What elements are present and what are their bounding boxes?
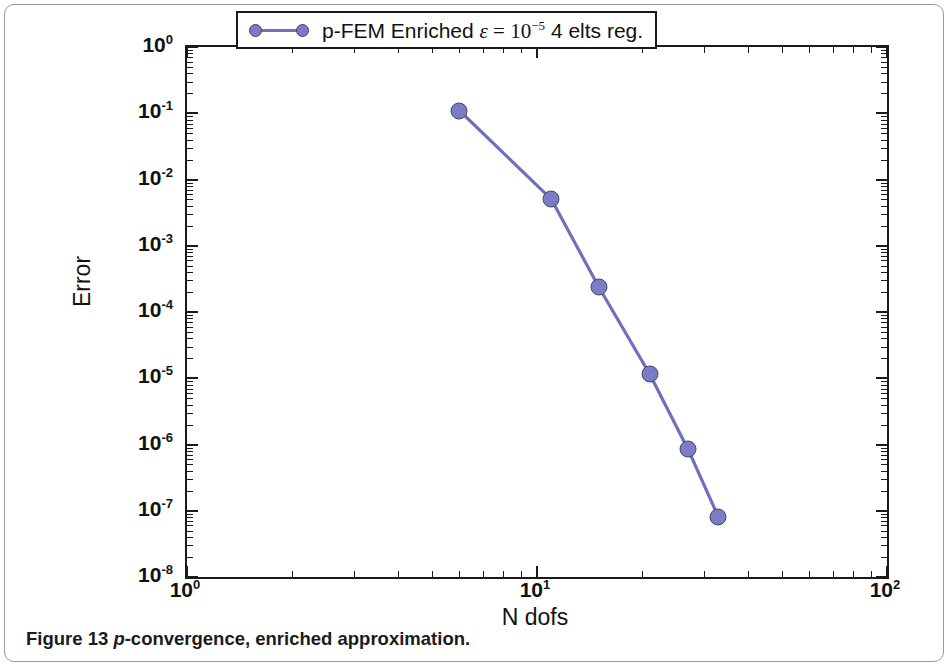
x-axis-major-tick xyxy=(886,566,888,577)
y-axis-minor-tick xyxy=(187,405,193,406)
y-axis-minor-tick xyxy=(187,327,193,328)
y-axis-minor-tick xyxy=(187,272,193,273)
x-axis-title: N dofs xyxy=(185,604,885,631)
x-axis-minor-tick xyxy=(782,571,783,577)
y-axis-minor-tick xyxy=(881,73,887,74)
y-axis-minor-tick xyxy=(187,451,193,452)
figure-caption: Figure 13 p-convergence, enriched approx… xyxy=(26,628,470,650)
series-polyline xyxy=(459,111,718,518)
y-axis-minor-tick xyxy=(881,128,887,129)
y-axis-minor-tick xyxy=(187,464,193,465)
x-axis-minor-tick xyxy=(642,571,643,577)
y-axis-minor-tick xyxy=(881,347,887,348)
y-axis-minor-tick xyxy=(881,385,887,386)
y-axis-minor-tick xyxy=(187,398,193,399)
y-axis-minor-tick xyxy=(187,128,193,129)
legend-label: p-FEM Enriched ε = 10−5 4 elts reg. xyxy=(322,19,643,42)
y-axis-minor-tick xyxy=(187,425,193,426)
x-axis-minor-tick xyxy=(354,571,355,577)
y-axis-minor-tick xyxy=(187,226,193,227)
y-axis-major-tick xyxy=(187,444,198,446)
y-axis-minor-tick xyxy=(187,266,193,267)
y-axis-minor-tick xyxy=(187,116,193,117)
y-axis-minor-tick xyxy=(881,358,887,359)
y-axis-minor-tick xyxy=(881,116,887,117)
y-axis-minor-tick xyxy=(881,226,887,227)
y-axis-tick-label: 10-3 xyxy=(138,232,173,254)
y-axis-minor-tick xyxy=(881,124,887,125)
data-point xyxy=(679,441,696,458)
y-axis-tick-label: 10-8 xyxy=(138,563,173,585)
y-axis-minor-tick xyxy=(187,249,193,250)
y-axis-minor-tick xyxy=(881,381,887,382)
y-axis-major-tick xyxy=(187,245,198,247)
y-axis-minor-tick xyxy=(881,459,887,460)
y-axis-minor-tick xyxy=(881,413,887,414)
y-axis-minor-tick xyxy=(881,249,887,250)
y-axis-minor-tick xyxy=(187,186,193,187)
x-axis-minor-tick xyxy=(853,47,854,53)
x-axis-minor-tick xyxy=(459,571,460,577)
y-axis-minor-tick xyxy=(187,393,193,394)
y-axis-minor-tick xyxy=(187,385,193,386)
y-axis-minor-tick xyxy=(187,358,193,359)
y-axis-minor-tick xyxy=(881,280,887,281)
y-axis-minor-tick xyxy=(881,451,887,452)
y-axis-minor-tick xyxy=(881,517,887,518)
y-axis-minor-tick xyxy=(881,183,887,184)
y-axis-minor-tick xyxy=(187,190,193,191)
y-axis-minor-tick xyxy=(187,413,193,414)
x-axis-minor-tick xyxy=(748,47,749,53)
y-axis-major-tick xyxy=(187,46,198,48)
y-axis-minor-tick xyxy=(187,206,193,207)
x-axis-major-tick xyxy=(186,566,188,577)
figure-page: 10010-110-210-310-410-510-610-710-8 Erro… xyxy=(0,0,952,670)
y-axis-minor-tick xyxy=(881,332,887,333)
y-axis-minor-tick xyxy=(881,256,887,257)
y-axis-major-tick xyxy=(187,311,198,313)
y-axis-minor-tick xyxy=(187,471,193,472)
x-axis-major-tick xyxy=(536,566,538,577)
y-axis-minor-tick xyxy=(187,525,193,526)
x-axis-minor-tick xyxy=(809,47,810,53)
data-point xyxy=(543,191,560,208)
y-axis-minor-tick xyxy=(187,82,193,83)
y-axis-minor-tick xyxy=(881,133,887,134)
y-axis-minor-tick xyxy=(881,186,887,187)
y-axis-minor-tick xyxy=(187,214,193,215)
series-line xyxy=(187,47,887,577)
y-axis-minor-tick xyxy=(881,199,887,200)
y-axis-minor-tick xyxy=(881,292,887,293)
x-axis-minor-tick xyxy=(432,571,433,577)
y-axis-minor-tick xyxy=(187,448,193,449)
plot-area xyxy=(185,45,889,579)
y-axis-minor-tick xyxy=(881,393,887,394)
y-axis-minor-tick xyxy=(881,140,887,141)
y-axis-minor-tick xyxy=(881,260,887,261)
y-axis-tick-label: 10-7 xyxy=(138,497,173,519)
y-axis-minor-tick xyxy=(881,315,887,316)
y-axis-minor-tick xyxy=(881,272,887,273)
data-point xyxy=(590,278,607,295)
x-axis-minor-tick xyxy=(521,571,522,577)
x-axis-minor-tick xyxy=(871,47,872,53)
data-point xyxy=(710,509,727,526)
y-axis-minor-tick xyxy=(881,514,887,515)
x-axis-minor-tick xyxy=(833,47,834,53)
y-axis-tick-label: 10-4 xyxy=(138,298,173,320)
y-axis-minor-tick xyxy=(881,464,887,465)
y-axis-minor-tick xyxy=(881,214,887,215)
y-axis-minor-tick xyxy=(881,67,887,68)
y-axis-minor-tick xyxy=(881,318,887,319)
x-axis-major-tick xyxy=(186,47,188,58)
x-axis-minor-tick xyxy=(871,571,872,577)
y-axis-minor-tick xyxy=(881,160,887,161)
y-axis-minor-tick xyxy=(881,491,887,492)
y-axis-minor-tick xyxy=(187,67,193,68)
y-axis-minor-tick xyxy=(187,256,193,257)
y-axis-minor-tick xyxy=(187,62,193,63)
y-axis-minor-tick xyxy=(187,292,193,293)
y-axis-minor-tick xyxy=(881,557,887,558)
y-axis-minor-tick xyxy=(881,322,887,323)
x-axis-minor-tick xyxy=(292,571,293,577)
